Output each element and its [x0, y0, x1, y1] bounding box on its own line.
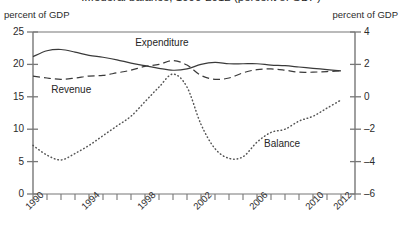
left-axis-tick-label: 0: [0, 188, 24, 199]
right-axis-tick-label: –6: [364, 188, 375, 199]
series-label-revenue: Revenue: [51, 84, 91, 95]
series-label-balance: Balance: [264, 138, 300, 149]
right-axis-tick-label: 2: [364, 58, 370, 69]
axes-layer: [27, 32, 361, 200]
series-line-revenue: [33, 61, 341, 80]
right-axis-tick-label: 4: [364, 26, 370, 37]
right-axis-tick-label: –4: [364, 156, 375, 167]
right-axis-tick-label: 0: [364, 91, 370, 102]
left-axis-tick-label: 10: [0, 123, 24, 134]
chart-figure: ...federal balance, 1990-2012 (percent o…: [0, 0, 402, 237]
left-axis-tick-label: 20: [0, 58, 24, 69]
series-line-expenditure: [33, 49, 341, 70]
left-axis-tick-label: 5: [0, 156, 24, 167]
left-axis-tick-label: 25: [0, 26, 24, 37]
left-axis-tick-label: 15: [0, 91, 24, 102]
series-label-expenditure: Expenditure: [135, 37, 188, 48]
right-axis-tick-label: –2: [364, 123, 375, 134]
